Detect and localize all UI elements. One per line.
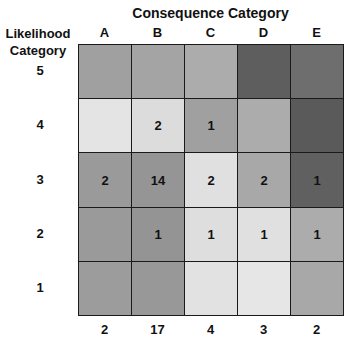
cell-5-d <box>237 44 291 99</box>
cell-4-c: 1 <box>184 98 238 153</box>
cell-3-d: 2 <box>237 152 291 208</box>
column-header-e: E <box>290 25 343 40</box>
cell-2-e: 1 <box>290 207 344 262</box>
row-header-5: 5 <box>20 63 60 78</box>
cell-3-b: 14 <box>131 152 185 208</box>
column-header-b: B <box>131 25 184 40</box>
cell-1-a <box>78 261 132 316</box>
cell-3-c: 2 <box>184 152 238 208</box>
cell-3-e: 1 <box>290 152 344 208</box>
cell-1-e <box>290 261 344 316</box>
cell-5-e <box>290 44 344 99</box>
cell-3-a: 2 <box>78 152 132 208</box>
cell-count-label: 2 <box>260 173 267 188</box>
cell-5-b <box>131 44 185 99</box>
column-header-d: D <box>237 25 290 40</box>
row-header-2: 2 <box>20 226 60 241</box>
cell-1-d <box>237 261 291 316</box>
cell-2-c: 1 <box>184 207 238 262</box>
column-total-d: 3 <box>237 322 290 337</box>
cell-5-a <box>78 44 132 99</box>
cell-5-c <box>184 44 238 99</box>
cell-count-label: 1 <box>207 227 214 242</box>
column-total-c: 4 <box>184 322 237 337</box>
cell-4-e <box>290 98 344 153</box>
column-total-b: 17 <box>131 322 184 337</box>
cell-4-b: 2 <box>131 98 185 153</box>
cell-count-label: 2 <box>154 118 161 133</box>
cell-count-label: 14 <box>151 173 165 188</box>
risk-matrix-grid: 212142211111 <box>78 44 343 315</box>
cell-2-a <box>78 207 132 262</box>
cell-1-b <box>131 261 185 316</box>
column-total-e: 2 <box>290 322 343 337</box>
row-header-3: 3 <box>20 172 60 187</box>
column-total-a: 2 <box>78 322 131 337</box>
cell-count-label: 2 <box>101 173 108 188</box>
cell-2-b: 1 <box>131 207 185 262</box>
cell-2-d: 1 <box>237 207 291 262</box>
column-header-c: C <box>184 25 237 40</box>
column-header-a: A <box>78 25 131 40</box>
cell-count-label: 1 <box>313 227 320 242</box>
cell-4-a <box>78 98 132 153</box>
cell-count-label: 2 <box>207 173 214 188</box>
cell-count-label: 1 <box>313 173 320 188</box>
cell-4-d <box>237 98 291 153</box>
cell-count-label: 1 <box>260 227 267 242</box>
cell-count-label: 1 <box>207 118 214 133</box>
chart-title: Consequence Category <box>78 5 343 21</box>
cell-count-label: 1 <box>154 227 161 242</box>
cell-1-c <box>184 261 238 316</box>
row-header-1: 1 <box>20 280 60 295</box>
row-header-4: 4 <box>20 117 60 132</box>
y-axis-label: Likelihood Category <box>0 25 76 59</box>
